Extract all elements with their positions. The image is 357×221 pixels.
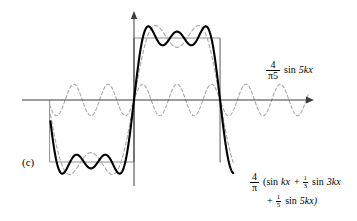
harmonic-fraction: 4 π5 [266, 60, 280, 81]
harmonic-label-row: 4 π5 sin 5kx [265, 60, 313, 81]
sum-fraction-denominator: π [250, 183, 259, 193]
harmonic-function-name: sin [284, 65, 296, 76]
sum-open-paren-sin: (sin [263, 177, 278, 188]
sum-label-line-1: 4 π (sin kx + 1 3 sin 3kx [249, 172, 341, 193]
x-axis-arrowhead [306, 97, 314, 104]
sum-fraction: 4 π [250, 172, 259, 193]
sum-term3-argument: 5kx) [300, 196, 317, 207]
sum-term2-argument: 3kx [327, 177, 341, 188]
harmonic-function-argument: 5kx [299, 65, 313, 76]
harmonic-fraction-denominator: π5 [266, 71, 280, 81]
sum-label-line-2: + 1 5 sin 5kx) [267, 194, 341, 208]
sum-term1-argument: kx [281, 177, 290, 188]
panel-label: (c) [22, 157, 34, 169]
y-axis-arrowhead [131, 11, 137, 19]
sum-term2-coefficient-denominator: 3 [303, 183, 309, 190]
sum-line1-plus: + [294, 177, 300, 188]
sum-line2-plus: + [267, 196, 273, 207]
sum-term2-coefficient: 1 3 [303, 175, 309, 189]
sum-term3-coefficient-denominator: 5 [276, 202, 282, 209]
sum-term3-coefficient: 1 5 [276, 194, 282, 208]
sum-term2-function-name: sin [312, 177, 324, 188]
fourier-series-figure: (c) 4 π5 sin 5kx 4 π (sin kx + 1 3 sin [0, 0, 357, 221]
sum-term3-function-name: sin [285, 196, 297, 207]
sum-label: 4 π (sin kx + 1 3 sin 3kx + 1 5 sin 5kx) [249, 172, 341, 208]
harmonic-label: 4 π5 sin 5kx [265, 60, 313, 81]
